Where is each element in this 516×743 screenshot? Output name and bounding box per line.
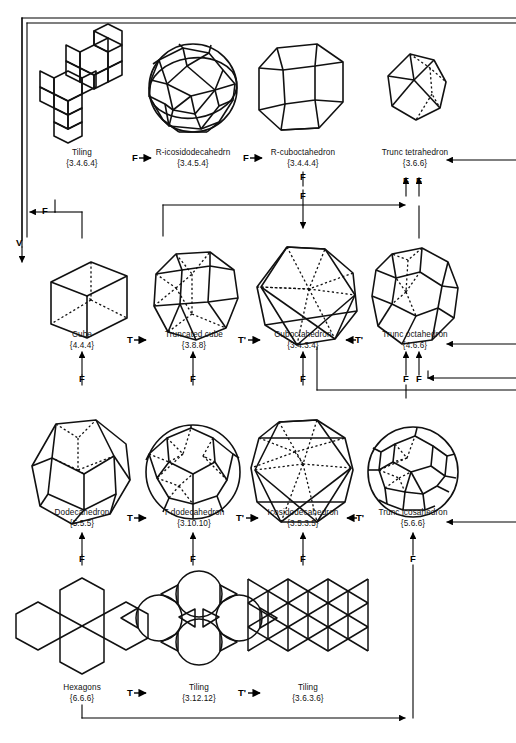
cell-name: Trunc octahedron (362, 330, 468, 341)
label-hexagons: Hexagons {6.6.6} (42, 683, 122, 704)
cell-name: Dodecahedron (32, 508, 132, 519)
flabel-above-cubocta: F (300, 191, 306, 201)
label-trunc-octahedron: Trunc octahedron {4.6.6} (362, 330, 468, 351)
cell-code: {3.4.5.4} (140, 159, 246, 170)
cell-code: {5.5.5} (32, 519, 132, 530)
shapes-layer (0, 0, 516, 743)
cell-name: Hexagons (42, 683, 122, 694)
tiling-hexagons (16, 578, 148, 674)
solid-r-icosidodecahedron (145, 44, 240, 132)
flabel-t-dodecahedron: F (190, 554, 196, 564)
solid-trunc-tetrahedron (388, 54, 446, 120)
label-cube: Cube {4.4.4} (42, 330, 122, 351)
flabel-cuboctahedron: F (300, 374, 306, 384)
solid-r-cuboctahedron (259, 44, 343, 130)
polyhedra-flow-diagram: Tiling {3.4.6.4} R-icosidodecahedrn {3.4… (0, 0, 516, 743)
op-row1-f1: F (132, 153, 138, 163)
cell-code: {3.6.6} (362, 159, 468, 170)
cell-name: R-icosidodecahedrn (140, 148, 246, 159)
label-cuboctahedron: Cuboctahedron {3.4.3.4} (256, 330, 350, 351)
cell-name: T dodecahedron (145, 508, 243, 519)
flabel-dodecahedron: F (79, 554, 85, 564)
cell-code: {3.10.10} (145, 519, 243, 530)
solid-t-dodecahedron (146, 425, 240, 519)
op-row3-tp1: T' (236, 513, 244, 523)
flabel-trunc-octa-right: F (416, 374, 422, 384)
label-t-dodecahedron: T dodecahedron {3.10.10} (145, 508, 243, 529)
solid-trunc-icosahedron (368, 427, 458, 517)
label-tiling-3464: Tiling {3.4.6.4} (32, 148, 132, 169)
cell-code: {3.5.3.5} (250, 519, 356, 530)
flabel-trunc-tetra-right: F (416, 176, 422, 186)
label-r-icosidodecahedron: R-icosidodecahedrn {3.4.5.4} (140, 148, 246, 169)
cell-name: Trunc tetrahedron (362, 148, 468, 159)
label-truncated-cube: Truncated cube {3.8.8} (147, 330, 241, 351)
cell-code: {5.6.6} (362, 519, 464, 530)
cell-name: Cuboctahedron (256, 330, 350, 341)
cell-name: Tiling (32, 148, 132, 159)
flabel-trunc-tetra-left: F (403, 176, 409, 186)
cell-code: {3.6.3.6} (264, 694, 352, 705)
label-r-cuboctahedron: R-cuboctahedron {3.4.4.4} (253, 148, 353, 169)
cell-name: Tiling (155, 683, 243, 694)
cell-name: Truncated cube (147, 330, 241, 341)
label-dodecahedron: Dodecahedron {5.5.5} (32, 508, 132, 529)
tiling-3-6-3-6 (248, 579, 368, 651)
vlabel-left-loop: V (16, 238, 22, 248)
op-row2-tp1: T' (238, 335, 246, 345)
flabel-trunc-icosahedron: F (410, 554, 416, 564)
cell-name: Icosidodecahedron (250, 508, 356, 519)
solid-tiling-3464 (40, 24, 122, 143)
label-tiling-3636: Tiling {3.6.3.6} (264, 683, 352, 704)
cell-code: {6.6.6} (42, 694, 122, 705)
cell-code: {4.6.6} (362, 341, 468, 352)
op-row2-t: T (127, 335, 133, 345)
cell-name: R-cuboctahedron (253, 148, 353, 159)
cell-code: {3.12.12} (155, 694, 243, 705)
flabel-cube: F (79, 374, 85, 384)
flabel-truncated-cube: F (190, 374, 196, 384)
cell-code: {3.4.6.4} (32, 159, 132, 170)
cell-code: {3.8.8} (147, 341, 241, 352)
op-row3-t: T (127, 513, 133, 523)
flabel-icosidodecahedron: F (300, 554, 306, 564)
flabel-r-cuboctahedron: F (300, 172, 306, 182)
cell-code: {4.4.4} (42, 341, 122, 352)
tiling-3-12-12 (121, 571, 277, 665)
flabel-left-loop: F (42, 206, 48, 216)
cell-code: {3.4.4.4} (253, 159, 353, 170)
cell-code: {3.4.3.4} (256, 341, 350, 352)
label-icosidodecahedron: Icosidodecahedron {3.5.3.5} (250, 508, 356, 529)
solid-cube (51, 262, 127, 338)
op-row3-tp2: T' (356, 513, 364, 523)
label-tiling-31212: Tiling {3.12.12} (155, 683, 243, 704)
solid-icosidodecahedron (251, 420, 353, 522)
label-trunc-tetrahedron: Trunc tetrahedron {3.6.6} (362, 148, 468, 169)
op-row4-tp: T' (238, 688, 246, 698)
cell-name: Cube (42, 330, 122, 341)
op-row4-t: T (127, 688, 133, 698)
op-row2-tp2: T' (355, 335, 363, 345)
label-trunc-icosahedron: Trunc icosahedron {5.6.6} (362, 508, 464, 529)
op-row1-f2: F (243, 153, 249, 163)
cell-name: Trunc icosahedron (362, 508, 464, 519)
flabel-trunc-octa-left: F (403, 374, 409, 384)
cell-name: Tiling (264, 683, 352, 694)
solid-truncated-cube (154, 252, 238, 340)
